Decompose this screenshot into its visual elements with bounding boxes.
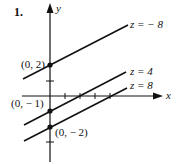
line-label-z-8: z = 8: [130, 80, 153, 91]
level-line-z-neg8: [23, 25, 128, 79]
point-label-0-neg1: (0, − 1): [11, 98, 44, 109]
x-axis-label: x: [166, 90, 171, 101]
point-label-0-neg2: (0, − 2): [55, 127, 88, 138]
x-axis-arrow-icon: [153, 93, 163, 100]
point-0-neg1: [47, 108, 52, 113]
y-axis-label: y: [56, 3, 61, 14]
point-label-0-2: (0, 2): [21, 59, 45, 70]
y-axis-arrow-icon: [47, 3, 54, 13]
point-0-2: [47, 62, 52, 67]
line-label-z-neg8: z = − 8: [130, 19, 163, 30]
problem-number: 1.: [14, 6, 23, 18]
line-label-z-4: z = 4: [130, 66, 153, 77]
point-0-neg2: [47, 124, 52, 129]
